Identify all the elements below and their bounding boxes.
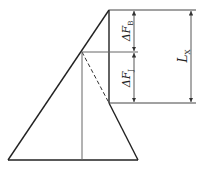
dashed-edge [82,52,109,103]
triangle-right-edge [109,103,138,160]
label-dF-J: ΔFJ [120,69,135,89]
label-dF-B-sub: B [127,21,135,26]
triangle-left-edge [8,10,109,160]
label-L-X-main: L [176,54,190,63]
svg-text:LX: LX [176,50,192,64]
svg-text:ΔFB: ΔFB [120,21,135,43]
svg-text:ΔFJ: ΔFJ [120,69,135,89]
label-dF-J-main: ΔF [120,71,133,88]
diagram: ΔFB ΔFJ LX [0,0,209,174]
label-L-X-sub: X [184,50,192,55]
diagram-svg: ΔFB ΔFJ LX [0,0,209,174]
label-dF-B: ΔFB [120,21,135,43]
label-dF-J-sub: J [127,69,135,73]
label-dF-B-main: ΔF [120,25,133,42]
label-L-X: LX [176,50,192,64]
